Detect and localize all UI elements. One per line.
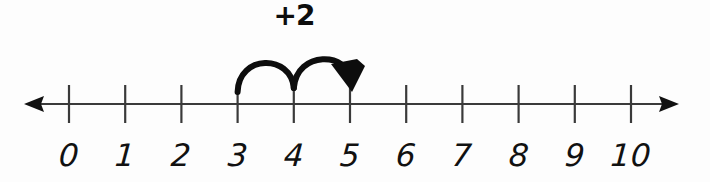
tick-label-5: 5 [339,140,361,171]
jump-label: +2 [274,2,315,30]
jump-arc-group [238,59,365,92]
axis-group [24,96,679,112]
tick-label-1: 1 [114,140,136,171]
number-line-figure: +2 012345678910 [0,0,710,182]
hop-arc-1 [238,63,294,92]
tick-label-9: 9 [564,140,586,171]
tick-label-0: 0 [58,140,80,171]
tick-label-7: 7 [451,140,473,171]
arrow-left-icon [24,96,44,112]
tick-label-3: 3 [226,140,248,171]
tick-label-6: 6 [395,140,417,171]
tick-label-10: 10 [610,140,653,171]
tick-label-8: 8 [507,140,529,171]
arrow-right-icon [659,96,679,112]
arrowhead-down-right-icon [331,59,365,92]
tick-label-4: 4 [283,140,305,171]
tick-label-2: 2 [170,140,192,171]
